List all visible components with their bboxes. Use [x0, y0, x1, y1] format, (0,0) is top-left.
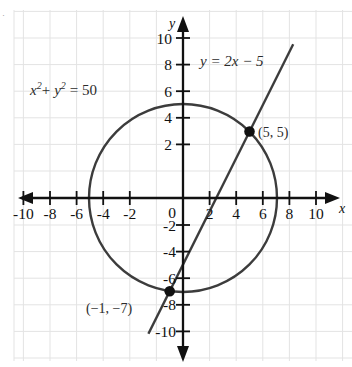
- x-tick-label: -2: [123, 205, 136, 222]
- coordinate-plane: -10 -8 -6 -4 -2 2 4 6 8 10 0 10 8 6 4 2 …: [0, 0, 352, 367]
- y-tick-label: 8: [164, 56, 172, 73]
- graph-figure: ·: [0, 0, 352, 367]
- y-tick-label: -2: [163, 217, 176, 234]
- y-tick-label: 10: [157, 30, 173, 47]
- svg-text:x2+y2= 50: x2+y2= 50: [29, 80, 97, 98]
- x-tick-label: 6: [259, 205, 267, 222]
- x-axis-left-arrow: [18, 192, 33, 204]
- y-tick-label: -10: [155, 323, 176, 340]
- x-tick-label: 10: [308, 205, 324, 222]
- y-tick-label: -6: [163, 270, 176, 287]
- line-equation-label: y = 2x − 5: [198, 53, 264, 69]
- intersection-point-lower-label: (−1, −7): [86, 301, 132, 317]
- y-tick-label: 6: [164, 83, 172, 100]
- y-axis-label: y: [167, 16, 176, 31]
- circle-equation-label: x2+y2= 50: [29, 80, 97, 98]
- circle-eq-plus: +: [42, 82, 50, 98]
- intersection-point-upper-label: (5, 5): [258, 125, 289, 141]
- x-tick-label: 8: [286, 205, 294, 222]
- circle-eq-rhs: = 50: [70, 82, 97, 98]
- circle-eq-y: y: [52, 82, 61, 98]
- x-axis-right-arrow: [325, 192, 340, 204]
- x-tick-label: -8: [44, 205, 57, 222]
- x-tick-label: 2: [206, 205, 214, 222]
- y-tick-label: 4: [164, 109, 172, 126]
- y-axis-bottom-arrow: [177, 346, 189, 362]
- intersection-point-upper: [244, 126, 255, 137]
- y-axis-top-arrow: [177, 16, 189, 32]
- problem-number-mark: ·: [2, 10, 5, 20]
- y-tick-label: -8: [163, 296, 176, 313]
- x-tick-label: -4: [97, 205, 110, 222]
- x-tick-label: 4: [232, 205, 240, 222]
- intersection-point-lower: [164, 286, 175, 297]
- circle-eq-exp2: 2: [61, 80, 66, 91]
- x-tick-label: -10: [13, 205, 34, 222]
- y-tick-label: 2: [164, 136, 172, 153]
- x-axis-label: x: [338, 201, 346, 216]
- axes: [18, 16, 340, 362]
- x-tick-label: -6: [70, 205, 83, 222]
- y-tick-label: -4: [163, 243, 176, 260]
